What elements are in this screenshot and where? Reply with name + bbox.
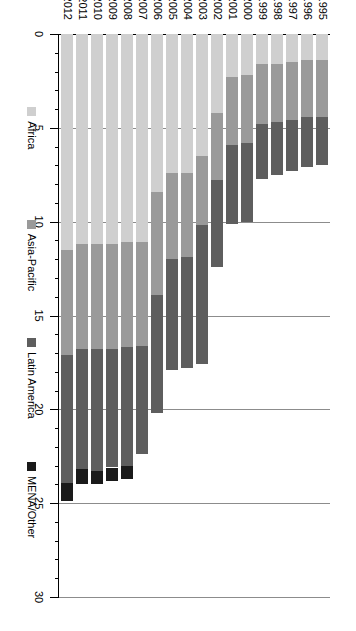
bar-segment: [241, 75, 253, 143]
bar-segment: [211, 180, 223, 266]
bar-segment: [61, 355, 73, 483]
bar-segment: [286, 34, 298, 62]
bar-segment: [196, 225, 208, 364]
bar-segment: [271, 64, 283, 122]
bar-segment: [166, 34, 178, 173]
legend-swatch-latin-america: [28, 338, 37, 347]
bar-segment: [256, 124, 268, 178]
bar-segment: [136, 242, 148, 345]
chart-rotated-canvas: 051015202530 199519961997199819992000200…: [0, 0, 356, 631]
bar-segment: [301, 34, 313, 60]
bar-segment: [76, 349, 88, 469]
category-label-2001: 2001: [227, 0, 239, 20]
legend-item-asia-pacific[interactable]: Asia-Pacific: [26, 220, 38, 291]
category-label-2011: 2011: [77, 0, 89, 20]
legend-swatch-mena-other: [28, 462, 37, 471]
tick-30: [50, 597, 59, 598]
bar-row: [256, 34, 268, 597]
bar-segment: [181, 257, 193, 368]
category-label-1999: 1999: [257, 0, 269, 20]
bar-row: [226, 34, 238, 597]
bar-segment: [241, 34, 253, 75]
category-label-1996: 1996: [302, 0, 314, 20]
bar-segment: [166, 259, 178, 370]
bar-row: [196, 34, 208, 597]
chart-figure: 051015202530 199519961997199819992000200…: [0, 0, 356, 631]
bar-segment: [106, 468, 118, 481]
bar-segment: [91, 349, 103, 471]
bar-segment: [91, 471, 103, 484]
legend-label: Asia-Pacific: [26, 234, 38, 291]
plot-wrapper: 051015202530 199519961997199819992000200…: [0, 0, 356, 631]
legend-item-mena-other[interactable]: MENA/Other: [26, 462, 38, 538]
category-label-2008: 2008: [122, 0, 134, 20]
category-label-2009: 2009: [107, 0, 119, 20]
bar-segment: [61, 483, 73, 502]
bar-row: [241, 34, 253, 597]
bar-row: [271, 34, 283, 597]
bar-segment: [136, 346, 148, 455]
category-label-2003: 2003: [197, 0, 209, 20]
bar-segment: [181, 34, 193, 173]
legend-item-africa[interactable]: Africa: [26, 107, 38, 149]
bar-segment: [226, 145, 238, 224]
bar-segment: [106, 244, 118, 349]
bar-segment: [226, 77, 238, 145]
bar-segment: [196, 34, 208, 156]
category-label-2004: 2004: [182, 0, 194, 20]
plot-area: [59, 34, 330, 597]
bar-segment: [76, 469, 88, 484]
legend-label: MENA/Other: [26, 476, 38, 538]
chart-legend: AfricaAsia-PacificLatin AmericaMENA/Othe…: [12, 34, 38, 597]
bar-segment: [256, 34, 268, 64]
bar-segment: [316, 60, 328, 116]
bar-segment: [316, 34, 328, 60]
bar-segment: [271, 34, 283, 64]
value-axis-line: [58, 34, 59, 597]
bar-segment: [256, 64, 268, 124]
bar-segment: [241, 143, 253, 222]
bar-segment: [76, 244, 88, 349]
category-label-2005: 2005: [167, 0, 179, 20]
bar-segment: [61, 250, 73, 355]
bar-row: [136, 34, 148, 597]
category-label-2007: 2007: [137, 0, 149, 20]
bar-segment: [301, 60, 313, 116]
bar-row: [121, 34, 133, 597]
category-label-1995: 1995: [317, 0, 329, 20]
bar-segment: [166, 173, 178, 259]
gridline-30: [59, 597, 330, 598]
bar-segment: [121, 466, 133, 479]
bar-segment: [151, 192, 163, 295]
bar-segment: [151, 295, 163, 413]
bar-segment: [106, 349, 118, 467]
bar-row: [211, 34, 223, 597]
bar-row: [286, 34, 298, 597]
bar-segment: [76, 34, 88, 244]
bar-segment: [316, 117, 328, 166]
bar-row: [316, 34, 328, 597]
category-label-2010: 2010: [92, 0, 104, 20]
bar-segment: [181, 173, 193, 257]
bar-segment: [91, 244, 103, 349]
bar-row: [76, 34, 88, 597]
bar-segment: [286, 120, 298, 171]
bar-segment: [151, 34, 163, 192]
legend-item-latin-america[interactable]: Latin America: [26, 338, 38, 419]
bar-segment: [136, 34, 148, 242]
legend-swatch-africa: [28, 107, 37, 116]
bar-row: [181, 34, 193, 597]
bar-segment: [121, 34, 133, 242]
bar-row: [91, 34, 103, 597]
bar-segment: [211, 113, 223, 181]
bar-segment: [196, 156, 208, 225]
bar-row: [61, 34, 73, 597]
bar-row: [106, 34, 118, 597]
category-label-2006: 2006: [152, 0, 164, 20]
category-label-1997: 1997: [287, 0, 299, 20]
bar-segment: [106, 34, 118, 244]
bar-segment: [211, 34, 223, 113]
bar-series-group: [59, 34, 330, 597]
bar-row: [301, 34, 313, 597]
bar-segment: [271, 122, 283, 175]
